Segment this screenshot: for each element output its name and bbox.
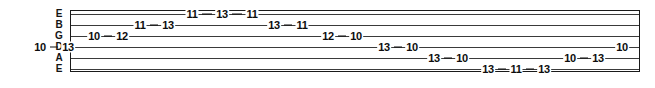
fret-number: 11 — [185, 9, 198, 20]
fret-number: 10 — [87, 31, 101, 42]
note-connector — [498, 69, 506, 70]
fret-number: 10 — [33, 42, 47, 53]
note-connector — [150, 25, 158, 26]
string-label-g-string: G — [52, 31, 66, 41]
fret-number: 13 — [377, 42, 391, 53]
note-connector — [444, 58, 452, 59]
fret-number: 11 — [245, 9, 258, 20]
fret-number: 13 — [215, 9, 229, 20]
note-connector — [526, 69, 534, 70]
fret-number: 11 — [509, 64, 522, 75]
string-label-low-e-string: E — [52, 64, 66, 74]
fret-number: 13 — [267, 20, 281, 31]
fret-number: 13 — [161, 20, 175, 31]
string-label-b-string: B — [52, 20, 66, 30]
note-connector — [50, 47, 58, 48]
fret-number: 10 — [615, 42, 629, 53]
note-connector — [338, 36, 346, 37]
note-connector — [394, 47, 402, 48]
fret-number: 13 — [537, 64, 551, 75]
fret-number: 13 — [591, 53, 605, 64]
note-connector — [580, 58, 588, 59]
fret-number: 12 — [321, 31, 335, 42]
fret-number: 10 — [455, 53, 469, 64]
fret-number: 10 — [349, 31, 363, 42]
fret-number: 13 — [427, 53, 441, 64]
string-label-high-e-string: E — [52, 9, 66, 19]
fret-number: 11 — [295, 20, 308, 31]
fret-number: 13 — [61, 42, 75, 53]
fret-number: 13 — [481, 64, 495, 75]
string-label-a-string: A — [52, 53, 66, 63]
note-connector — [232, 14, 242, 15]
note-connector — [202, 14, 212, 15]
note-connector — [284, 25, 292, 26]
note-connector — [104, 36, 112, 37]
guitar-tab-figure: EBGDAE 111311111313111012121010131310101… — [0, 0, 655, 88]
fret-number: 11 — [133, 20, 146, 31]
fret-number: 10 — [405, 42, 419, 53]
fret-number: 10 — [563, 53, 577, 64]
fret-number: 12 — [115, 31, 129, 42]
